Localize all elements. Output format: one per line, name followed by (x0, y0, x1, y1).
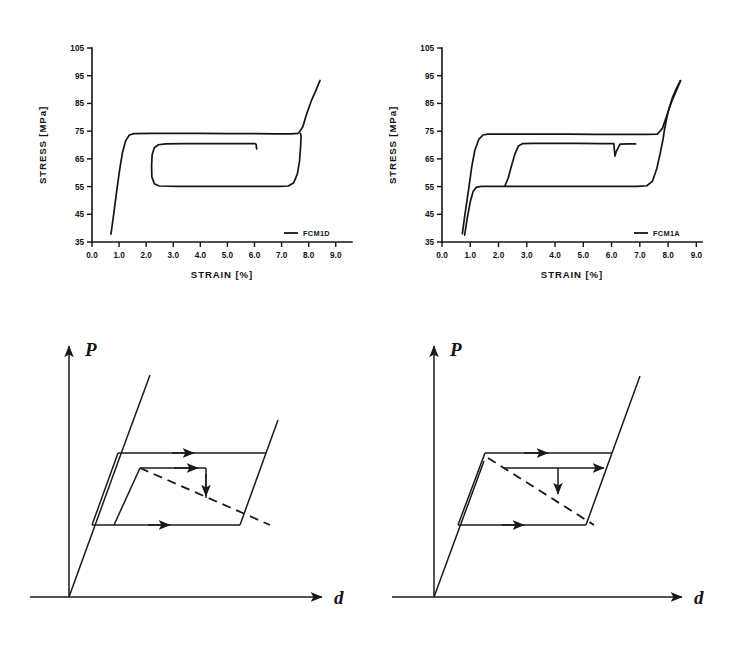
y-axis-title: STRESS [MPa] (387, 106, 398, 184)
diagram-panel-left: P d (22, 312, 367, 632)
chart-left-axes (92, 48, 352, 242)
chart-left-y-ticks: 10595857565554535 (70, 44, 92, 247)
data-curve-1 (152, 133, 301, 186)
diagram-right-left-unload-branch (458, 453, 485, 525)
diagram-right-svg: P d (372, 312, 717, 632)
x-tick-label: 6.0 (606, 251, 618, 260)
chart-left-legend: FCM1D (284, 229, 330, 238)
y-tick-label: 55 (425, 183, 435, 192)
x-tick-label: 7.0 (276, 251, 288, 260)
y-tick-label: 65 (425, 155, 435, 164)
x-tick-label: 0.0 (86, 251, 98, 260)
diagram-left-inner-left-branch (114, 468, 140, 525)
diagram-right-right-unload-branch (586, 453, 612, 525)
chart-left-svg: 10595857565554535 0.01.02.03.04.05.06.07… (22, 26, 367, 306)
x-tick-label: 8.0 (303, 251, 315, 260)
diagram-left-final-rise (122, 375, 150, 451)
y-tick-label: 95 (75, 72, 85, 81)
y-tick-label: 75 (75, 127, 85, 136)
diagram-left-svg: P d (22, 312, 367, 632)
chart-panel-left: 10595857565554535 0.01.02.03.04.05.06.07… (22, 26, 367, 306)
diagram-right-y-axis-label: P (449, 339, 462, 360)
diagram-panel-right: P d (372, 312, 717, 632)
y-tick-label: 105 (70, 44, 84, 53)
diagram-right-elastic-loading (434, 461, 484, 597)
x-tick-label: 0.0 (436, 251, 448, 260)
x-tick-label: 7.0 (634, 251, 646, 260)
y-tick-label: 85 (425, 99, 435, 108)
data-curve-0 (462, 81, 680, 234)
y-tick-label: 85 (75, 99, 85, 108)
diagram-left-x-axis-label: d (334, 587, 344, 608)
figure-root: 10595857565554535 0.01.02.03.04.05.06.07… (0, 0, 729, 646)
chart-right-y-ticks: 10595857565554535 (420, 44, 442, 247)
x-tick-label: 5.0 (578, 251, 590, 260)
data-curve-2 (505, 143, 636, 186)
chart-panel-right: 10595857565554535 0.01.02.03.04.05.06.07… (372, 26, 717, 306)
diagram-left-y-axis-label: P (84, 339, 97, 360)
x-tick-label: 8.0 (662, 251, 674, 260)
y-tick-label: 95 (425, 72, 435, 81)
legend-label-series: FCM1A (653, 229, 680, 238)
y-tick-label: 45 (75, 210, 85, 219)
x-tick-label: 9.0 (330, 251, 342, 260)
x-tick-label: 6.0 (249, 251, 261, 260)
x-tick-label: 3.0 (168, 251, 180, 260)
x-tick-label: 2.0 (493, 251, 505, 260)
diagram-left-upper-right-rise (266, 420, 278, 453)
chart-right-axes (442, 48, 702, 242)
x-axis-title: STRAIN [%] (191, 269, 253, 280)
y-axis-title: STRESS [MPa] (37, 106, 48, 184)
y-tick-label: 35 (75, 238, 85, 247)
chart-left-curves (111, 80, 320, 234)
chart-right-svg: 10595857565554535 0.01.02.03.04.05.06.07… (372, 26, 717, 306)
chart-left-x-ticks: 0.01.02.03.04.05.06.07.08.09.0 (86, 242, 342, 260)
diagram-right-x-axis-label: d (694, 587, 704, 608)
x-axis-title: STRAIN [%] (541, 269, 603, 280)
x-tick-label: 1.0 (113, 251, 125, 260)
legend-label-series: FCM1D (303, 229, 330, 238)
y-tick-label: 65 (75, 155, 85, 164)
data-curve-1 (465, 81, 681, 235)
diagram-left-left-unload-branch (92, 453, 118, 525)
x-tick-label: 4.0 (549, 251, 561, 260)
chart-right-x-ticks: 0.01.02.03.04.05.06.07.08.09.0 (436, 242, 702, 260)
chart-right-curves (462, 81, 680, 235)
x-tick-label: 2.0 (140, 251, 152, 260)
diagram-right-final-rise (612, 376, 640, 453)
data-curve-0 (111, 80, 320, 234)
chart-right-legend: FCM1A (634, 229, 680, 238)
y-tick-label: 35 (425, 238, 435, 247)
x-tick-label: 1.0 (465, 251, 477, 260)
y-tick-label: 55 (75, 183, 85, 192)
y-tick-label: 45 (425, 210, 435, 219)
x-tick-label: 5.0 (222, 251, 234, 260)
x-tick-label: 3.0 (521, 251, 533, 260)
x-tick-label: 9.0 (691, 251, 703, 260)
x-tick-label: 4.0 (195, 251, 207, 260)
y-tick-label: 75 (425, 127, 435, 136)
y-tick-label: 105 (420, 44, 434, 53)
